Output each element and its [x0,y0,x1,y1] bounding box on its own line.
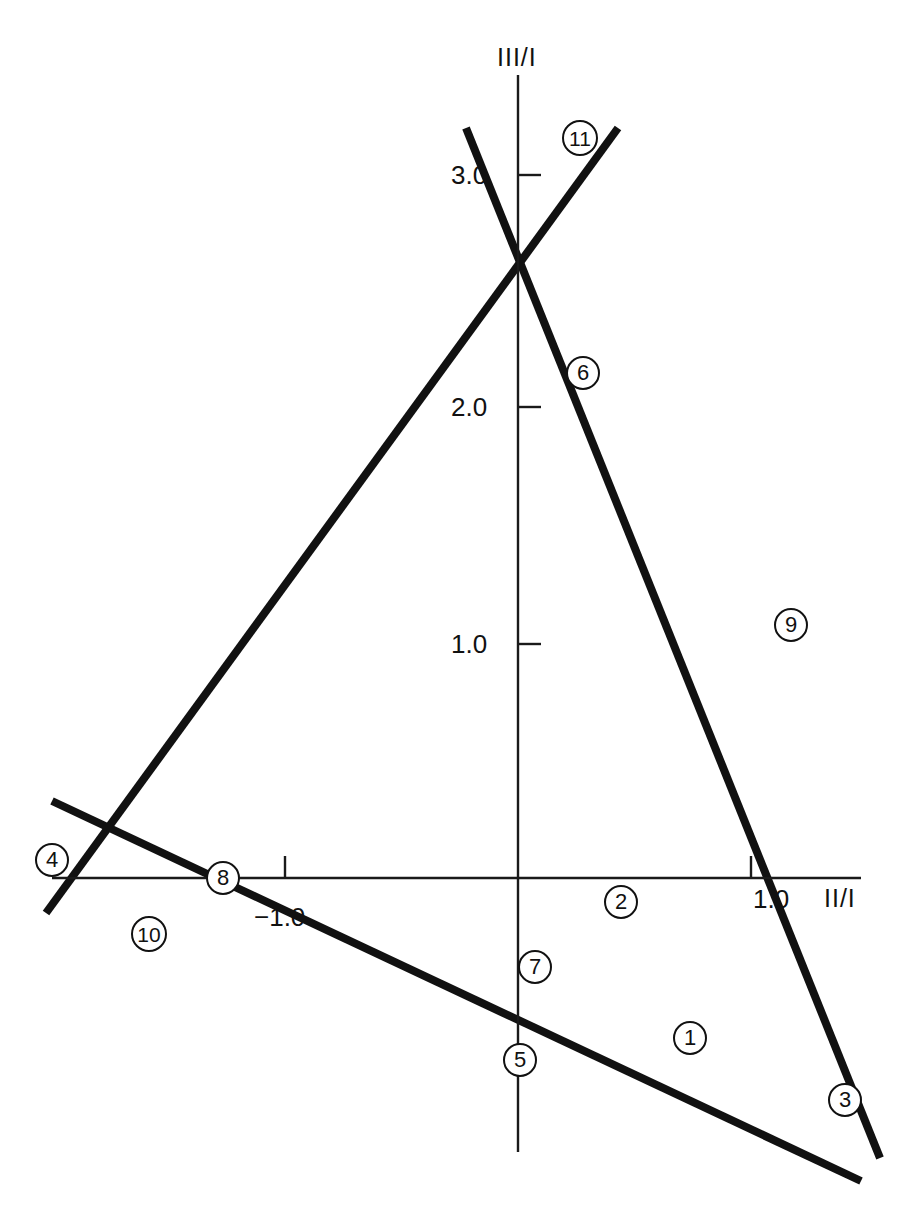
region-label-7: 7 [518,950,552,984]
region-label-1: 1 [673,1021,707,1055]
region-label-3: 3 [828,1083,862,1117]
chart-plot-area: III/I II/I 3.0 2.0 1.0 −1.0 1.0 1 2 3 4 … [0,0,914,1216]
x-axis-title: II/I [824,884,856,913]
region-label-5: 5 [503,1043,537,1077]
region-label-10: 10 [131,916,167,952]
x-tick-label-1.0: 1.0 [753,884,789,915]
region-label-6: 6 [566,356,600,390]
region-label-11: 11 [562,120,598,156]
region-label-9: 9 [774,608,808,642]
region-label-2: 2 [604,885,638,919]
y-tick-label-1.0: 1.0 [451,629,487,660]
data-line-shallow [52,801,861,1181]
region-label-8: 8 [206,861,240,895]
x-tick-label-neg1.0: −1.0 [254,902,305,933]
region-label-4: 4 [35,843,69,877]
data-line-ascending [46,128,618,913]
y-axis-title: III/I [497,43,537,72]
y-tick-label-3.0: 3.0 [451,160,487,191]
y-tick-label-2.0: 2.0 [451,392,487,423]
